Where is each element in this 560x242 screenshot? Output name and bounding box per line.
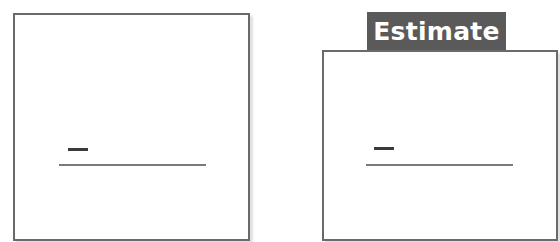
answer-line bbox=[366, 164, 513, 166]
estimate-card-right bbox=[322, 50, 558, 241]
answer-line bbox=[59, 164, 206, 166]
short-dash bbox=[68, 148, 88, 151]
blank-card-left bbox=[13, 13, 250, 241]
short-dash bbox=[374, 147, 394, 150]
estimate-tab-label: Estimate bbox=[367, 12, 506, 51]
